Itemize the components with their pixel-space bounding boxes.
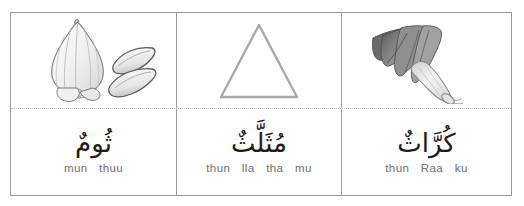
translit-part: thun [385,162,409,174]
picture-row [11,13,511,108]
translit-part: tha [266,162,283,174]
transliteration-garlic: mun thuu [60,162,127,174]
transliteration-triangle: thun lla tha mu [202,162,316,174]
translit-part: mun [64,162,88,174]
arabic-word-leek: كُرَّاثٌ [397,130,455,157]
translit-part: lla [242,162,255,174]
translit-part: Raa [421,162,443,174]
garlic-bulb-illustration [28,18,160,104]
flashcard-sheet: ثُومٌ mun thuu مُثَلَّثٌ thun lla tha mu… [10,12,512,196]
translit-part: mu [295,162,312,174]
translit-part: thun [206,162,230,174]
picture-cell-leek [342,13,511,108]
arabic-word-triangle: مُثَلَّثٌ [231,130,287,157]
word-cell-leek: كُرَّاثٌ thun Raa ku [342,109,511,195]
word-cell-triangle: مُثَلَّثٌ thun lla tha mu [176,109,342,195]
transliteration-leek: thun Raa ku [381,162,471,174]
picture-cell-garlic [11,13,176,108]
arabic-word-garlic: ثُومٌ [75,130,112,157]
translit-part: thuu [99,162,123,174]
word-row: ثُومٌ mun thuu مُثَلَّثٌ thun lla tha mu… [11,108,511,195]
triangle-shape [216,20,302,102]
translit-part: ku [455,162,468,174]
leek-illustration [367,18,487,104]
picture-cell-triangle [176,13,342,108]
word-cell-garlic: ثُومٌ mun thuu [11,109,176,195]
